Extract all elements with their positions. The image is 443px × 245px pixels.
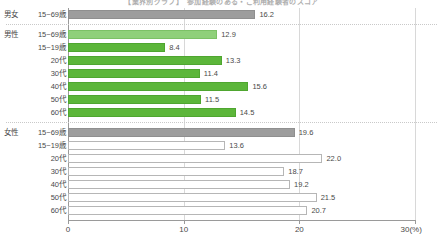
bar-track: 19.6 <box>68 126 443 139</box>
bar-value-label: 12.9 <box>217 28 236 41</box>
bar[interactable] <box>68 95 201 104</box>
bar[interactable] <box>68 154 322 163</box>
x-tick-30 <box>415 220 416 224</box>
bar[interactable] <box>68 82 248 91</box>
bar-rows-container: 男女15~69歳16.2男性15~69歳12.915~19歳8.420代13.3… <box>0 8 443 217</box>
bar-value-label: 14.5 <box>236 106 255 119</box>
bar-track: 11.4 <box>68 67 443 80</box>
bar-track: 19.2 <box>68 178 443 191</box>
bar-row: 20代13.3 <box>0 54 443 67</box>
bar-value-label: 15.6 <box>248 80 267 93</box>
bar[interactable] <box>68 206 307 215</box>
category-label: 40代 <box>30 80 66 93</box>
bar-track: 16.2 <box>68 8 443 21</box>
x-tick-10 <box>184 220 185 224</box>
category-label: 30代 <box>30 165 66 178</box>
bar[interactable] <box>68 30 217 39</box>
bar-row: 30代11.4 <box>0 67 443 80</box>
bar-row: 30代18.7 <box>0 165 443 178</box>
bar-track: 14.5 <box>68 106 443 119</box>
x-tick-label-20: 20 <box>295 225 304 234</box>
bar-value-label: 13.3 <box>222 54 241 67</box>
separator-line <box>6 122 437 123</box>
bar[interactable] <box>68 167 284 176</box>
x-tick-0 <box>68 220 69 224</box>
category-label: 60代 <box>30 106 66 119</box>
bar-value-label: 22.0 <box>322 152 341 165</box>
category-label: 60代 <box>30 204 66 217</box>
bar-row: 40代15.6 <box>0 80 443 93</box>
bar-track: 21.5 <box>68 191 443 204</box>
bar-value-label: 19.2 <box>290 178 309 191</box>
bar-row: 50代11.5 <box>0 93 443 106</box>
bar-group-0: 男女15~69歳16.2 <box>0 8 443 21</box>
bar-value-label: 13.6 <box>225 139 244 152</box>
bar-group-1: 男性15~69歳12.915~19歳8.420代13.330代11.440代15… <box>0 21 443 119</box>
bar[interactable] <box>68 128 295 137</box>
category-label: 15~19歳 <box>30 41 66 54</box>
x-axis-line <box>68 220 416 221</box>
category-label: 40代 <box>30 178 66 191</box>
bar-track: 18.7 <box>68 165 443 178</box>
bar-value-label: 18.7 <box>284 165 303 178</box>
category-label: 30代 <box>30 67 66 80</box>
bar-row: 女性15~69歳19.6 <box>0 126 443 139</box>
bar[interactable] <box>68 193 317 202</box>
x-tick-20 <box>299 220 300 224</box>
bar-value-label: 8.4 <box>165 41 179 54</box>
category-label: 15~19歳 <box>30 139 66 152</box>
x-axis: 0102030(%) <box>0 220 443 245</box>
bar[interactable] <box>68 56 222 65</box>
bar-track: 13.6 <box>68 139 443 152</box>
bar[interactable] <box>68 69 200 78</box>
bar-track: 22.0 <box>68 152 443 165</box>
bar[interactable] <box>68 141 225 150</box>
bar-value-label: 16.2 <box>255 8 274 21</box>
category-label: 50代 <box>30 93 66 106</box>
bar-row: 60代20.7 <box>0 204 443 217</box>
category-label: 15~69歳 <box>30 28 66 41</box>
bar-value-label: 21.5 <box>317 191 336 204</box>
bar-value-label: 20.7 <box>307 204 326 217</box>
bar-track: 15.6 <box>68 80 443 93</box>
bar[interactable] <box>68 108 236 117</box>
plot-area: 男女15~69歳16.2男性15~69歳12.915~19歳8.420代13.3… <box>0 8 443 220</box>
bar-row: 50代21.5 <box>0 191 443 204</box>
bar-row: 男性15~69歳12.9 <box>0 28 443 41</box>
bar-row: 40代19.2 <box>0 178 443 191</box>
bar-track: 8.4 <box>68 41 443 54</box>
bar[interactable] <box>68 10 255 19</box>
bar-track: 12.9 <box>68 28 443 41</box>
bar-track: 11.5 <box>68 93 443 106</box>
category-label: 50代 <box>30 191 66 204</box>
bar-row: 男女15~69歳16.2 <box>0 8 443 21</box>
bar-row: 20代22.0 <box>0 152 443 165</box>
group-separator <box>0 21 443 28</box>
bar-group-2: 女性15~69歳19.615~19歳13.620代22.030代18.740代1… <box>0 119 443 217</box>
separator-line <box>6 24 437 25</box>
group-separator <box>0 119 443 126</box>
bar-track: 13.3 <box>68 54 443 67</box>
x-tick-label-0: 0 <box>66 225 70 234</box>
x-tick-label-30: 30(%) <box>400 225 421 234</box>
bar-track: 20.7 <box>68 204 443 217</box>
bar[interactable] <box>68 43 165 52</box>
bar-row: 15~19歳8.4 <box>0 41 443 54</box>
bar-value-label: 11.4 <box>200 67 218 80</box>
chart-title: 【業界別グラフ】 参加経験のある・ご利用経験者のスコア <box>0 0 443 6</box>
bar[interactable] <box>68 180 290 189</box>
bar-value-label: 19.6 <box>295 126 314 139</box>
category-label: 15~69歳 <box>30 8 66 21</box>
x-tick-label-10: 10 <box>179 225 188 234</box>
category-label: 20代 <box>30 152 66 165</box>
category-label: 20代 <box>30 54 66 67</box>
bar-value-label: 11.5 <box>201 93 219 106</box>
bar-row: 15~19歳13.6 <box>0 139 443 152</box>
bar-row: 60代14.5 <box>0 106 443 119</box>
category-label: 15~69歳 <box>30 126 66 139</box>
